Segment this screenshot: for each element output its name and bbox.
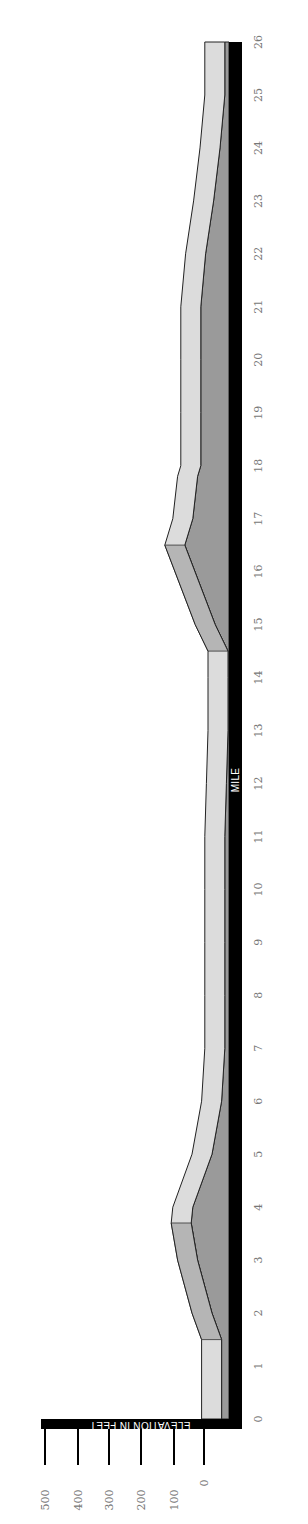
mile-tick-label: 7 bbox=[252, 1045, 265, 1052]
elevation-surface bbox=[165, 42, 229, 1419]
elevation-tick-label: 100 bbox=[168, 1490, 181, 1511]
elevation-tick-label: 400 bbox=[72, 1490, 85, 1511]
mile-tick-label: 13 bbox=[252, 724, 265, 738]
mile-tick-label: 16 bbox=[252, 565, 265, 579]
mile-tick-label: 1 bbox=[252, 1363, 265, 1370]
elevation-tick-label: 300 bbox=[103, 1490, 116, 1511]
mile-tick-label: 19 bbox=[252, 406, 265, 420]
mile-tick-label: 21 bbox=[252, 300, 265, 314]
mile-tick-label: 17 bbox=[252, 512, 265, 526]
mile-tick-label: 25 bbox=[252, 88, 265, 102]
mile-tick-label: 0 bbox=[252, 1416, 265, 1423]
mile-tick-label: 18 bbox=[252, 459, 265, 473]
mile-tick-label: 24 bbox=[252, 141, 265, 155]
elevation-tick-label: 500 bbox=[39, 1490, 52, 1511]
mile-tick-label: 22 bbox=[252, 247, 265, 261]
elevation-axis-title: ELEVATION IN FEET bbox=[90, 1420, 191, 1431]
mile-tick-label: 6 bbox=[252, 1098, 265, 1105]
elevation-profile-chart: ELEVATION IN FEET MILE 01234567891011121… bbox=[0, 0, 308, 1524]
mile-axis-title: MILE bbox=[230, 768, 241, 793]
mile-tick-label: 12 bbox=[252, 777, 265, 791]
elevation-ticks: 0100200300400500 bbox=[39, 1429, 211, 1511]
mile-tick-label: 3 bbox=[252, 1257, 265, 1264]
mile-tick-label: 11 bbox=[252, 829, 265, 843]
mile-tick-label: 14 bbox=[252, 671, 265, 685]
elevation-tick-label: 200 bbox=[135, 1490, 148, 1511]
mile-tick-label: 26 bbox=[252, 35, 265, 49]
mile-tick-labels: 0123456789101112131415161718192021222324… bbox=[252, 35, 265, 1423]
mile-tick-label: 15 bbox=[252, 618, 265, 632]
mile-tick-label: 10 bbox=[252, 882, 265, 896]
mile-axis-bar bbox=[229, 42, 242, 1429]
mile-tick-label: 4 bbox=[252, 1204, 265, 1211]
elevation-tick-label: 0 bbox=[198, 1480, 211, 1487]
mile-tick-label: 9 bbox=[252, 939, 265, 946]
mile-tick-label: 5 bbox=[252, 1151, 265, 1158]
mile-tick-label: 20 bbox=[252, 353, 265, 367]
mile-tick-label: 8 bbox=[252, 992, 265, 999]
mile-tick-label: 2 bbox=[252, 1310, 265, 1317]
mile-tick-label: 23 bbox=[252, 194, 265, 208]
